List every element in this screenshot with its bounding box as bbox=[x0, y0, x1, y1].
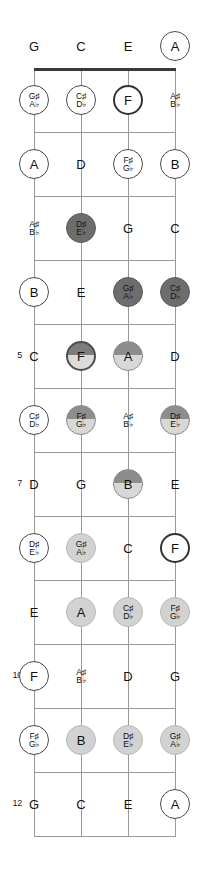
note-name-primary: B bbox=[77, 734, 86, 747]
note-marker-fret11-string-g[interactable]: F♯G♭ bbox=[19, 725, 49, 755]
note-name-primary: D bbox=[170, 350, 179, 363]
note-marker-fret2-string-e[interactable]: F♯G♭ bbox=[113, 149, 143, 179]
note-name-enharmonic: E♭ bbox=[76, 228, 85, 237]
note-marker-fret0-string-a[interactable]: A bbox=[160, 31, 190, 61]
note-name-enharmonic: B♭ bbox=[76, 676, 85, 685]
note-marker-fret1-string-e[interactable]: F bbox=[113, 85, 143, 115]
note-marker-fret10-string-e[interactable]: D bbox=[113, 661, 143, 691]
note-name-enharmonic: A♭ bbox=[29, 100, 38, 109]
note-marker-fret4-string-g[interactable]: B bbox=[19, 277, 49, 307]
note-name-primary: A bbox=[30, 158, 39, 171]
note-marker-fret8-string-c[interactable]: G♯A♭ bbox=[66, 533, 96, 563]
note-marker-fret7-string-e[interactable]: B bbox=[113, 469, 143, 499]
note-marker-fret2-string-g[interactable]: A bbox=[19, 149, 49, 179]
note-marker-fret2-string-c[interactable]: D bbox=[66, 149, 96, 179]
note-name-primary: D bbox=[123, 670, 132, 683]
note-marker-fret10-string-a[interactable]: G bbox=[160, 661, 190, 691]
note-name-primary: C bbox=[29, 350, 38, 363]
note-name-enharmonic: A♭ bbox=[123, 292, 132, 301]
fret-line-8 bbox=[34, 580, 176, 581]
note-name-primary: B bbox=[171, 158, 180, 171]
note-marker-fret3-string-g[interactable]: A♯B♭ bbox=[19, 213, 49, 243]
note-name-primary: E bbox=[171, 478, 180, 491]
note-marker-fret12-string-e[interactable]: E bbox=[113, 789, 143, 819]
note-marker-fret0-string-g[interactable]: G bbox=[19, 31, 49, 61]
note-name-primary: C bbox=[76, 40, 85, 53]
note-name-primary: A bbox=[77, 606, 86, 619]
note-marker-fret9-string-g[interactable]: E bbox=[19, 597, 49, 627]
note-marker-fret5-string-e[interactable]: A bbox=[113, 341, 143, 371]
note-name-primary: E bbox=[30, 606, 39, 619]
note-marker-fret2-string-a[interactable]: B bbox=[160, 149, 190, 179]
note-marker-fret1-string-a[interactable]: A♯B♭ bbox=[160, 85, 190, 115]
note-name-primary: E bbox=[124, 40, 133, 53]
note-name-primary: B bbox=[124, 478, 133, 491]
note-name-primary: C bbox=[76, 798, 85, 811]
note-marker-fret5-string-g[interactable]: C bbox=[19, 341, 49, 371]
note-name-enharmonic: B♭ bbox=[123, 420, 132, 429]
fret-line-9 bbox=[34, 644, 176, 645]
note-marker-fret8-string-a[interactable]: F bbox=[160, 533, 190, 563]
note-name-primary: G bbox=[29, 40, 39, 53]
note-marker-fret3-string-c[interactable]: D♯E♭ bbox=[66, 213, 96, 243]
note-marker-fret4-string-a[interactable]: C♯D♭ bbox=[160, 277, 190, 307]
note-name-primary: G bbox=[170, 670, 180, 683]
fret-line-1 bbox=[34, 132, 176, 133]
note-marker-fret9-string-a[interactable]: F♯G♭ bbox=[160, 597, 190, 627]
note-marker-fret3-string-a[interactable]: C bbox=[160, 213, 190, 243]
note-marker-fret12-string-c[interactable]: C bbox=[66, 789, 96, 819]
note-marker-fret6-string-c[interactable]: F♯G♭ bbox=[66, 405, 96, 435]
note-marker-fret11-string-e[interactable]: D♯E♭ bbox=[113, 725, 143, 755]
note-marker-fret1-string-c[interactable]: C♯D♭ bbox=[66, 85, 96, 115]
note-name-enharmonic: G♭ bbox=[29, 740, 39, 749]
note-name-enharmonic: E♭ bbox=[123, 740, 132, 749]
fret-line-12 bbox=[34, 836, 176, 837]
note-marker-fret1-string-g[interactable]: G♯A♭ bbox=[19, 85, 49, 115]
note-name-primary: F bbox=[30, 670, 38, 683]
note-marker-fret4-string-c[interactable]: E bbox=[66, 277, 96, 307]
note-marker-fret8-string-g[interactable]: D♯E♭ bbox=[19, 533, 49, 563]
note-marker-fret12-string-g[interactable]: G bbox=[19, 789, 49, 819]
note-marker-fret8-string-e[interactable]: C bbox=[113, 533, 143, 563]
note-name-enharmonic: D♭ bbox=[123, 612, 133, 621]
fret-line-7 bbox=[34, 516, 176, 517]
note-name-enharmonic: D♭ bbox=[170, 292, 180, 301]
note-marker-fret7-string-c[interactable]: G bbox=[66, 469, 96, 499]
note-name-primary: A bbox=[171, 40, 180, 53]
note-name-enharmonic: G♭ bbox=[76, 420, 86, 429]
note-name-primary: D bbox=[29, 478, 38, 491]
note-marker-fret10-string-g[interactable]: F bbox=[19, 661, 49, 691]
note-name-primary: G bbox=[123, 222, 133, 235]
note-marker-fret11-string-c[interactable]: B bbox=[66, 725, 96, 755]
note-marker-fret10-string-c[interactable]: A♯B♭ bbox=[66, 661, 96, 691]
note-marker-fret4-string-e[interactable]: G♯A♭ bbox=[113, 277, 143, 307]
note-marker-fret3-string-e[interactable]: G bbox=[113, 213, 143, 243]
note-name-primary: A bbox=[124, 350, 133, 363]
note-name-enharmonic: A♭ bbox=[170, 740, 179, 749]
note-name-primary: C bbox=[123, 542, 132, 555]
fret-line-11 bbox=[34, 772, 176, 773]
note-name-enharmonic: G♭ bbox=[123, 164, 133, 173]
note-name-primary: F bbox=[171, 542, 179, 555]
note-marker-fret0-string-e[interactable]: E bbox=[113, 31, 143, 61]
note-name-primary: E bbox=[77, 286, 86, 299]
note-marker-fret5-string-a[interactable]: D bbox=[160, 341, 190, 371]
note-marker-fret11-string-a[interactable]: G♯A♭ bbox=[160, 725, 190, 755]
note-marker-fret7-string-g[interactable]: D bbox=[19, 469, 49, 499]
note-marker-fret9-string-e[interactable]: C♯D♭ bbox=[113, 597, 143, 627]
note-name-primary: A bbox=[171, 798, 180, 811]
fretboard-diagram: 571012GCEAG♯A♭C♯D♭FA♯B♭ADF♯G♭BA♯B♭D♯E♭GC… bbox=[0, 0, 200, 888]
note-name-primary: F bbox=[77, 350, 85, 363]
note-marker-fret6-string-g[interactable]: C♯D♭ bbox=[19, 405, 49, 435]
fret-line-5 bbox=[34, 388, 176, 389]
note-marker-fret9-string-c[interactable]: A bbox=[66, 597, 96, 627]
fret-line-4 bbox=[34, 324, 176, 325]
fret-line-2 bbox=[34, 196, 176, 197]
note-name-enharmonic: E♭ bbox=[170, 420, 179, 429]
note-marker-fret6-string-a[interactable]: D♯E♭ bbox=[160, 405, 190, 435]
note-marker-fret0-string-c[interactable]: C bbox=[66, 31, 96, 61]
note-marker-fret7-string-a[interactable]: E bbox=[160, 469, 190, 499]
note-marker-fret12-string-a[interactable]: A bbox=[160, 789, 190, 819]
note-marker-fret6-string-e[interactable]: A♯B♭ bbox=[113, 405, 143, 435]
note-marker-fret5-string-c[interactable]: F bbox=[66, 341, 96, 371]
